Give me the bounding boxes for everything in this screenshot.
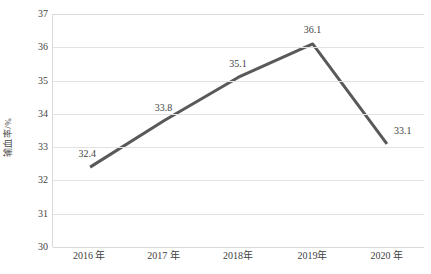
gridline xyxy=(53,14,424,15)
data-point-label: 35.1 xyxy=(229,59,247,69)
data-point-label: 33.1 xyxy=(394,126,412,136)
y-axis-tick-label: 30 xyxy=(18,242,48,252)
data-point-label: 36.1 xyxy=(304,25,322,35)
y-axis-tick-labels: 3736353433323130 xyxy=(18,0,48,274)
y-axis-tick-label: 35 xyxy=(18,76,48,86)
x-axis-tick-label: 2019年 xyxy=(297,250,327,262)
gridline xyxy=(53,147,424,148)
y-axis-tick-label: 37 xyxy=(18,9,48,19)
y-axis-tick-label: 31 xyxy=(18,209,48,219)
x-axis-tick-label: 2018年 xyxy=(223,250,253,262)
gridline xyxy=(53,47,424,48)
gridline xyxy=(53,214,424,215)
gridline xyxy=(53,247,424,248)
gridline xyxy=(53,180,424,181)
y-axis-tick-label: 32 xyxy=(18,175,48,185)
x-axis-tick-label: 2017 年 xyxy=(147,250,180,262)
plot-area xyxy=(52,14,424,247)
data-point-label: 33.8 xyxy=(155,103,173,113)
y-axis-title-label: 输血率/% xyxy=(2,117,15,157)
series-line xyxy=(53,14,424,247)
y-axis-tick-label: 36 xyxy=(18,42,48,52)
x-axis-tick-label: 2016 年 xyxy=(73,250,106,262)
gridline xyxy=(53,114,424,115)
y-axis-title: 输血率/% xyxy=(0,0,16,274)
gridline xyxy=(53,81,424,82)
x-axis-tick-labels: 2016 年2017 年2018年2019年2020 年 xyxy=(52,250,424,270)
data-point-label: 32.4 xyxy=(78,149,96,159)
y-axis-tick-label: 33 xyxy=(18,142,48,152)
x-axis-tick-label: 2020 年 xyxy=(371,250,404,262)
y-axis-tick-label: 34 xyxy=(18,109,48,119)
line-chart: 输血率/% 3736353433323130 2016 年2017 年2018年… xyxy=(0,0,431,274)
